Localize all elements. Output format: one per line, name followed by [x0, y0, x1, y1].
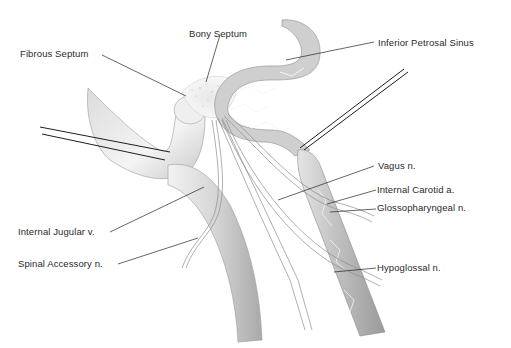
label-internal-jugular: Internal Jugular v. [18, 226, 95, 237]
label-inferior-petrosal-sinus: Inferior Petrosal Sinus [378, 37, 474, 48]
label-spinal-accessory: Spinal Accessory n. [18, 258, 103, 269]
leader-inferior-petrosal-sinus [286, 42, 374, 60]
label-hypoglossal: Hypoglossal n. [377, 262, 441, 273]
leader-bony-septum [206, 35, 220, 82]
right-retractor [300, 69, 408, 150]
leader-internal-carotid [327, 190, 376, 204]
internal-jugular-vein [168, 164, 262, 342]
label-bony-septum: Bony Septum [189, 28, 247, 39]
label-glossopharyngeal: Glossopharyngeal n. [377, 202, 466, 213]
label-internal-carotid: Internal Carotid a. [377, 184, 454, 195]
leader-fibrous-septum [102, 55, 186, 96]
leader-internal-jugular [110, 187, 204, 232]
label-fibrous-septum: Fibrous Septum [20, 48, 88, 59]
label-vagus: Vagus n. [378, 160, 416, 171]
leader-spinal-accessory [118, 238, 198, 264]
